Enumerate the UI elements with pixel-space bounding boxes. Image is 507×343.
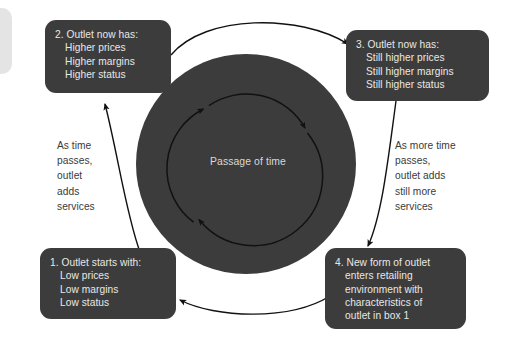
stage-box-1-line-4: Low status: [50, 296, 166, 309]
stage-box-1-line-2: Low prices: [50, 269, 166, 282]
stage-box-3-line-2: Still higher prices: [356, 51, 479, 64]
stage-box-1-line-3: Low margins: [50, 283, 166, 296]
stage-box-3[interactable]: 3. Outlet now has: Still higher prices S…: [346, 30, 489, 101]
arrow-box2-to-box3: [171, 23, 348, 55]
stage-box-4-line-5: outlet in box 1: [335, 309, 456, 322]
caption-left-line-1: As time: [57, 138, 127, 153]
diagram-canvas: Passage of time 2. Outlet now has: Highe…: [0, 0, 507, 343]
center-label: Passage of time: [178, 156, 318, 167]
arrow-box4-to-box1: [180, 296, 330, 314]
stage-box-1-line-1: 1. Outlet starts with:: [50, 256, 166, 269]
page-edge-artifact: [0, 8, 12, 74]
caption-left-line-3: outlet: [57, 168, 127, 183]
caption-right-line-5: services: [395, 199, 490, 214]
caption-right-line-4: still more: [395, 184, 490, 199]
stage-box-2-line-2: Higher prices: [55, 41, 161, 54]
stage-box-2-line-4: Higher status: [55, 68, 161, 81]
caption-left: As time passes, outlet adds services: [57, 138, 127, 214]
stage-box-4-line-1: 4. New form of outlet: [335, 256, 456, 269]
stage-box-4-line-4: characteristics of: [335, 296, 456, 309]
stage-box-1[interactable]: 1. Outlet starts with: Low prices Low ma…: [40, 248, 176, 319]
stage-box-4-line-2: enters retailing: [335, 269, 456, 282]
stage-box-3-line-3: Still higher margins: [356, 65, 479, 78]
stage-box-2-line-1: 2. Outlet now has:: [55, 28, 161, 41]
caption-left-line-4: adds: [57, 184, 127, 199]
stage-box-3-line-1: 3. Outlet now has:: [356, 38, 479, 51]
caption-right-line-1: As more time: [395, 138, 490, 153]
arrow-box3-to-box4: [368, 101, 396, 246]
caption-right: As more time passes, outlet adds still m…: [395, 138, 490, 214]
caption-left-line-2: passes,: [57, 153, 127, 168]
caption-right-line-2: passes,: [395, 153, 490, 168]
stage-box-4[interactable]: 4. New form of outlet enters retailing e…: [325, 248, 466, 329]
caption-right-line-3: outlet adds: [395, 168, 490, 183]
stage-box-2[interactable]: 2. Outlet now has: Higher prices Higher …: [45, 20, 171, 93]
stage-box-2-line-3: Higher margins: [55, 55, 161, 68]
caption-left-line-5: services: [57, 199, 127, 214]
stage-box-4-line-3: environment with: [335, 283, 456, 296]
stage-box-3-line-4: Still higher status: [356, 78, 479, 91]
